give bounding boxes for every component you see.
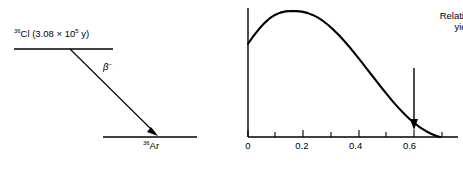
beta-decay-figure: 36Cl (3.08 × 105 y) β− 36Ar [0,0,463,172]
parent-halflife-text: (3.08 × 10 [30,28,76,39]
beta-minus-label: β− [103,61,112,73]
arrowhead-icon [147,127,158,136]
y-axis-label: Relativeyield [422,11,463,33]
parent-nuclide-label: 36Cl (3.08 × 105 y) [14,28,89,40]
x-tick-label-0-6: 0.6 [403,140,416,151]
y-axis-label-line1: Relative [440,10,463,21]
decay-scheme-panel: 36Cl (3.08 × 105 y) β− 36Ar [0,0,232,172]
y-axis-label-line2: yield [454,21,463,32]
decay-scheme-drawing [0,0,232,172]
beta-spectrum-panel: Relativeyield Beta particle energy MeV E… [230,0,463,172]
beta-spectrum-curve [248,11,440,137]
beta-charge-superscript: − [108,61,111,67]
x-tick-label-0-2: 0.2 [295,140,308,151]
daughter-nuclide-label: 36Ar [143,140,159,152]
daughter-element-symbol: Ar [150,140,160,151]
parent-halflife-tail: y) [79,28,90,39]
x-axis-ticks [248,130,442,137]
x-tick-label-0: 0 [245,140,250,151]
endpoint-arrow-icon [410,68,418,130]
x-tick-label-0-4: 0.4 [349,140,362,151]
beta-transition-arrow [70,49,155,133]
parent-element-symbol: Cl [21,28,30,39]
